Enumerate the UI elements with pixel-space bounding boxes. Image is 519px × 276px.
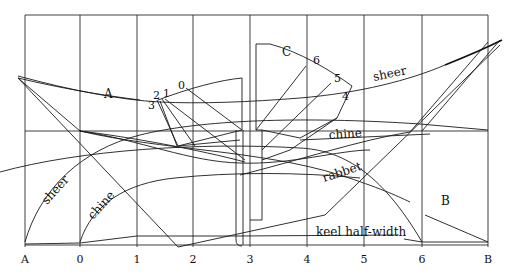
section-3 [157, 100, 242, 146]
chine-upper-line [300, 134, 430, 140]
label-keel-half-width: keel half-width [316, 225, 407, 239]
section-number-5: 5 [334, 72, 341, 85]
label-diagonal-a: A [103, 87, 113, 101]
station-label-A: A [20, 253, 30, 266]
station-label-5: 5 [361, 253, 368, 266]
label-sheer-upper: sheer [372, 63, 408, 84]
diagonal-b-line [80, 131, 488, 242]
label-diagonal-b: B [441, 194, 450, 208]
section-number-3: 3 [148, 99, 155, 112]
section-1-lower [165, 99, 245, 160]
sheer-profile-end [445, 40, 502, 65]
station-label-B: B [484, 253, 492, 266]
section-number-6: 6 [313, 54, 320, 67]
station-label-4: 4 [304, 253, 311, 266]
curve-labels: A C sheer chine rabbet B sheer chine kee… [39, 45, 450, 239]
section-chine-link [178, 140, 240, 146]
lines-drawing: A C sheer chine rabbet B sheer chine kee… [0, 0, 519, 276]
rabbet-curve-inner [80, 131, 370, 163]
half-breadth-curves [0, 120, 488, 244]
station-label-3: 3 [247, 253, 254, 266]
section-number-4: 4 [342, 90, 349, 103]
sternpost [250, 44, 262, 220]
label-chine-lower: chine [85, 188, 118, 222]
label-diagonal-c: C [282, 45, 291, 59]
station-label-6: 6 [419, 253, 426, 266]
diagonal-line-2 [18, 78, 80, 131]
section-arc-0 [158, 78, 242, 100]
label-chine-upper: chine [328, 126, 362, 142]
sheer-half-breadth [25, 120, 488, 242]
station-label-1: 1 [134, 253, 141, 266]
label-sheer-lower: sheer [39, 172, 72, 207]
section-numbers: 0 1 2 3 4 5 6 [148, 54, 349, 112]
station-labels: A 0 1 2 3 4 5 6 B [20, 253, 492, 266]
station-label-2: 2 [190, 253, 197, 266]
station-label-0: 0 [77, 253, 84, 266]
section-number-1: 1 [163, 87, 170, 100]
section-5 [262, 83, 331, 150]
keel-stem-left [236, 130, 242, 246]
section-number-0: 0 [178, 79, 185, 92]
section-aft-link [262, 118, 337, 138]
